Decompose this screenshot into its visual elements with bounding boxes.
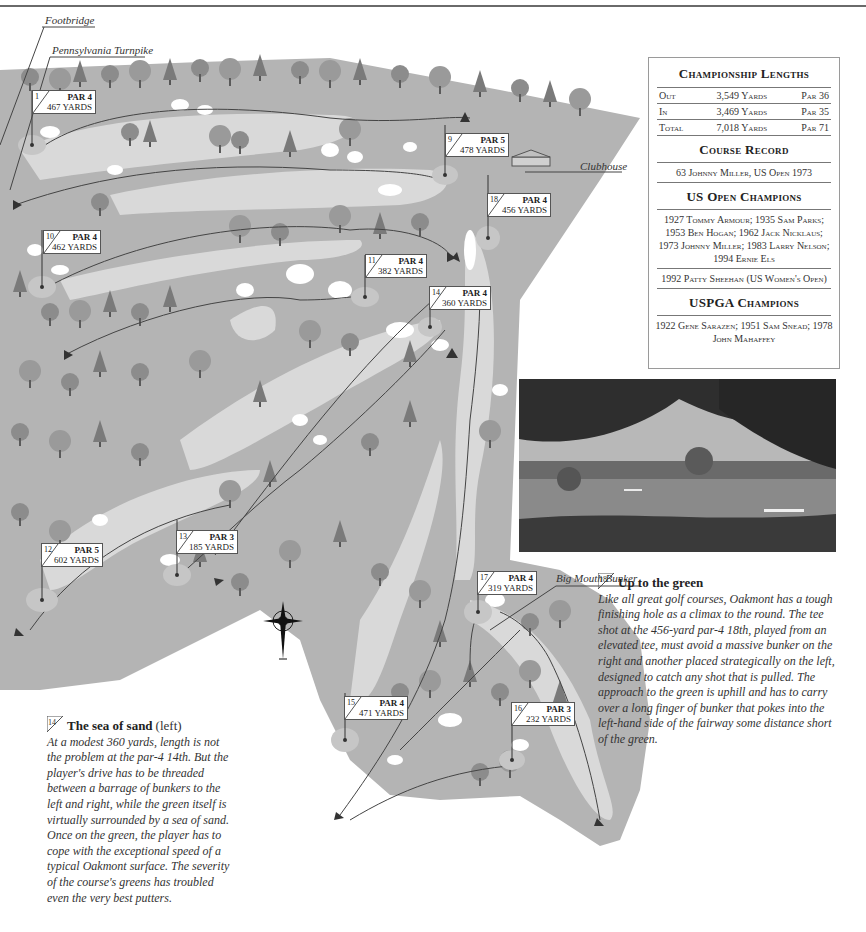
us-open-title: US Open Champions <box>649 189 839 205</box>
lengths-row-out: Out 3,549 Yards Par 36 <box>649 88 839 103</box>
story-18-body: Like all great golf courses, Oakmont has… <box>598 592 843 748</box>
us-open-champions: 1927 Tommy Armour; 1935 Sam Parks; 1953 … <box>649 210 839 268</box>
lengths-row-in: In 3,469 Yards Par 35 <box>649 104 839 119</box>
story-14-title-suffix: (left) <box>156 718 182 733</box>
hole-label-18: 18 PAR 4 456 YARDS <box>487 193 551 217</box>
uspga-champions: 1922 Gene Sarazen; 1951 Sam Snead; 1978 … <box>649 316 839 348</box>
course-photo <box>519 379 836 552</box>
story-18-title: Up to the green <box>618 575 703 590</box>
story-hole-18: 18 Up to the green Like all great golf c… <box>598 573 843 748</box>
course-record: 63 Johnny Miller, US Open 1973 <box>649 163 839 182</box>
course-record-title: Course Record <box>649 142 839 158</box>
hole-label-16: 16 PAR 3 232 YARDS <box>511 702 575 726</box>
hole-label-10: 10 PAR 4 462 YARDS <box>43 230 101 254</box>
story-hole-14: 14 The sea of sand (left) At a modest 36… <box>47 716 235 906</box>
hole-label-1: 1 PAR 4 467 YARDS <box>32 90 96 114</box>
hole-number-triangle-icon: 14 <box>47 716 63 732</box>
hole-label-12: 12 PAR 5 602 YARDS <box>41 543 103 567</box>
callout-pennsylvania-turnpike: Pennsylvania Turnpike <box>52 44 153 56</box>
lengths-row-total: Total 7,018 Yards Par 71 <box>649 120 839 135</box>
hole-label-11: 11 PAR 4 382 YARDS <box>365 254 427 278</box>
hole-label-17: 17 PAR 4 319 YARDS <box>477 571 537 595</box>
hole-label-15: 15 PAR 4 471 YARDS <box>344 696 408 720</box>
callout-footbridge: Footbridge <box>45 14 95 26</box>
hole-label-13: 13 PAR 3 185 YARDS <box>176 530 238 554</box>
hole-label-14: 14 PAR 4 360 YARDS <box>429 286 491 310</box>
story-14-title: The sea of sand <box>67 718 153 733</box>
lengths-title: Championship Lengths <box>649 66 839 82</box>
championship-panel: Championship Lengths Out 3,549 Yards Par… <box>648 57 840 369</box>
womens-open-champion: 1992 Patty Sheehan (US Women's Open) <box>649 269 839 288</box>
hole-number-triangle-icon: 18 <box>598 573 614 589</box>
story-14-body: At a modest 360 yards, length is not the… <box>47 735 235 907</box>
uspga-title: USPGA Champions <box>649 295 839 311</box>
callout-clubhouse: Clubhouse <box>580 160 627 172</box>
hole-label-9: 9 PAR 5 478 YARDS <box>445 133 509 157</box>
